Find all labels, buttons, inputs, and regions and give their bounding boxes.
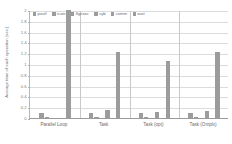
bars-layer: [30, 11, 228, 118]
bar: [116, 52, 120, 118]
legend-item[interactable]: flgexec: [71, 12, 89, 16]
bar-group: [30, 11, 80, 118]
y-tick-label: 1.2: [21, 52, 27, 56]
x-axis-label: Task: [79, 123, 129, 128]
legend-swatch-icon: [133, 12, 136, 15]
x-axis-category-labels: Parallel LoopTaskTask (opt)Task (Omplx): [29, 123, 228, 137]
y-axis-tickmark: [28, 33, 30, 34]
category-separator: [130, 11, 131, 118]
legend-swatch-icon: [94, 12, 97, 15]
legend-item-label: wait: [137, 12, 144, 16]
y-tick-label: 2: [24, 9, 26, 13]
bar: [144, 117, 148, 118]
bar: [89, 113, 93, 118]
y-axis-title-text: Average time of each operation (sec.): [5, 26, 9, 97]
bar: [66, 10, 70, 118]
y-tick-label: 0.6: [21, 84, 27, 88]
y-tick-label: 1.8: [21, 20, 27, 24]
y-axis-tickmark: [28, 11, 30, 12]
y-tick-label: 1.4: [21, 41, 27, 45]
legend-swatch-icon: [33, 12, 36, 15]
bar: [139, 113, 143, 118]
legend-item-label: comm: [116, 12, 127, 16]
bar-group: [179, 11, 229, 118]
legend-item[interactable]: comm: [111, 12, 127, 16]
x-axis-label: Task (opt): [129, 123, 179, 128]
y-axis-tickmark: [28, 87, 30, 88]
bar: [45, 117, 49, 118]
y-axis-tickmark: [28, 76, 30, 77]
bar-group: [130, 11, 180, 118]
legend-swatch-icon: [52, 12, 55, 15]
y-axis-tickmark: [28, 119, 30, 120]
y-tick-label: 0: [24, 117, 26, 121]
x-axis-label: Parallel Loop: [29, 123, 79, 128]
category-separator: [179, 11, 180, 118]
x-axis-label: Task (Omplx): [178, 123, 228, 128]
bar: [39, 113, 43, 118]
legend-item[interactable]: wait: [133, 12, 145, 16]
y-tick-label: 0.2: [21, 106, 27, 110]
chart-legend: postficumflgexecsybcommwait: [33, 12, 145, 16]
plot-area: [29, 11, 228, 119]
y-tick-label: 1.6: [21, 30, 27, 34]
bar: [188, 113, 192, 118]
y-axis-tickmark: [28, 108, 30, 109]
y-tick-label: 0.8: [21, 74, 27, 78]
bar: [94, 117, 98, 118]
y-axis-tickmark: [28, 97, 30, 98]
y-axis-tick-labels: 00.20.40.60.811.21.41.61.82: [13, 11, 28, 119]
y-tick-label: 0.4: [21, 95, 27, 99]
bar: [155, 112, 159, 118]
legend-item[interactable]: syb: [94, 12, 105, 16]
y-axis-title: Average time of each operation (sec.): [0, 0, 14, 124]
y-axis-tickmark: [28, 65, 30, 66]
y-axis-tickmark: [28, 22, 30, 23]
bar: [166, 61, 170, 118]
bar: [215, 52, 219, 118]
legend-item-label: flgexec: [76, 12, 89, 16]
y-axis-tickmark: [28, 54, 30, 55]
bar: [194, 117, 198, 118]
legend-item[interactable]: postf: [33, 12, 47, 16]
y-tick-label: 1: [24, 63, 26, 67]
category-separator: [80, 11, 81, 118]
bar: [105, 110, 109, 118]
bar-group: [80, 11, 130, 118]
legend-swatch-icon: [111, 12, 114, 15]
legend-item[interactable]: icum: [52, 12, 65, 16]
y-axis-tickmark: [28, 43, 30, 44]
legend-item-label: postf: [38, 12, 47, 16]
bar-chart: Average time of each operation (sec.) 00…: [0, 0, 232, 144]
legend-swatch-icon: [71, 12, 74, 15]
legend-item-label: icum: [57, 12, 66, 16]
legend-item-label: syb: [99, 12, 106, 16]
bar: [205, 111, 209, 118]
